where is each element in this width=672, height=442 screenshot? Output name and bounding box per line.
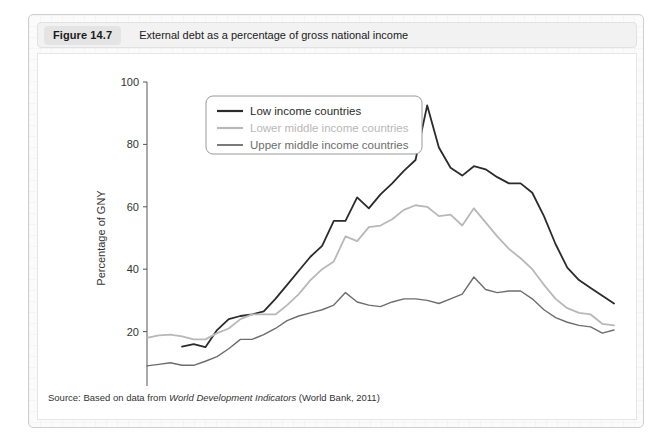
line-chart: 020406080100Percentage of GNY19701975198… <box>38 54 638 387</box>
y-tick-label: 80 <box>127 138 139 150</box>
legend-label-1: Lower middle income countries <box>250 122 409 134</box>
figure-panel: Figure 14.7 External debt as a percentag… <box>28 14 644 428</box>
series-line-2 <box>147 277 614 366</box>
source-suffix: (World Bank, 2011) <box>296 392 380 403</box>
source-prefix: Source: Based on data from <box>48 392 169 403</box>
figure-header: Figure 14.7 External debt as a percentag… <box>37 22 637 48</box>
figure-number-badge: Figure 14.7 <box>44 26 121 45</box>
y-tick-label: 40 <box>127 263 139 275</box>
source-italic-title: World Development Indicators <box>169 392 296 403</box>
figure-footer: Source: Based on data from World Develop… <box>37 386 637 420</box>
y-tick-label: 20 <box>127 326 139 338</box>
y-tick-label: 60 <box>127 201 139 213</box>
source-note: Source: Based on data from World Develop… <box>48 392 380 403</box>
legend-label-0: Low income countries <box>250 105 361 117</box>
figure-screenshot: Figure 14.7 External debt as a percentag… <box>0 0 672 442</box>
legend-label-2: Upper middle income countries <box>250 139 409 151</box>
figure-caption: External debt as a percentage of gross n… <box>139 29 408 41</box>
plot-area: 020406080100Percentage of GNY19701975198… <box>37 53 637 386</box>
series-line-1 <box>147 205 614 339</box>
y-axis-title: Percentage of GNY <box>95 190 107 286</box>
y-tick-label: 100 <box>121 76 139 88</box>
